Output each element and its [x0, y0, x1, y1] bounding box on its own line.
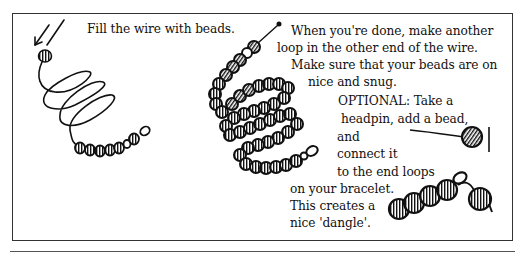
illustration-layer [0, 0, 523, 258]
bracelet-dangle-illustration [389, 170, 492, 219]
headpin-bead-illustration [410, 127, 489, 152]
beaded-coil-illustration [209, 23, 319, 175]
left-bead-row [75, 125, 151, 157]
wire-spiral-illustration [35, 20, 115, 147]
